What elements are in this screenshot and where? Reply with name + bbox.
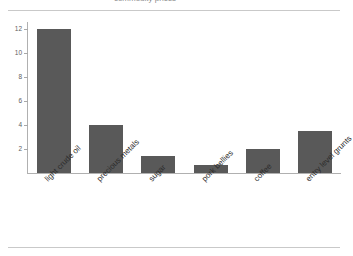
- bottom-divider: [8, 247, 340, 248]
- bar-chart: 24681012 light crude oilprecious metalss…: [0, 14, 348, 246]
- y-axis-tick-label: 12: [15, 26, 22, 33]
- y-axis-tick-mark: [24, 101, 28, 102]
- y-axis-tick-mark: [24, 149, 28, 150]
- y-axis-tick-label: 10: [15, 50, 22, 57]
- y-axis-tick-mark: [24, 125, 28, 126]
- cropped-title-text: commodity prices: [110, 0, 180, 3]
- bar: [37, 29, 71, 173]
- top-divider: [8, 10, 340, 11]
- y-axis-tick-mark: [24, 53, 28, 54]
- y-axis-tick-label: 6: [18, 98, 22, 105]
- y-axis-tick-label: 2: [18, 146, 22, 153]
- y-axis-tick-label: 4: [18, 122, 22, 129]
- y-axis-tick-mark: [24, 77, 28, 78]
- y-axis-tick-mark: [24, 29, 28, 30]
- y-axis-tick-label: 8: [18, 74, 22, 81]
